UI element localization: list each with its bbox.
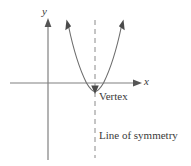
y-axis [45, 18, 52, 160]
y-axis-label: y [42, 6, 47, 17]
parabola-figure: y x Vertex Line of symmetry [0, 0, 191, 166]
y-axis-arrowhead-icon [45, 18, 52, 27]
vertex-label: Vertex [99, 91, 128, 102]
parabola-left-arrowhead-icon [65, 20, 71, 31]
vertex-arrowhead-icon [91, 86, 99, 95]
figure-canvas [0, 0, 191, 166]
parabola-right-arrowhead-icon [119, 20, 125, 31]
x-axis [10, 80, 142, 87]
line-of-symmetry-label: Line of symmetry [99, 130, 178, 141]
x-axis-arrowhead-icon [133, 80, 142, 87]
vertex-marker [91, 86, 99, 95]
x-axis-label: x [144, 76, 149, 87]
